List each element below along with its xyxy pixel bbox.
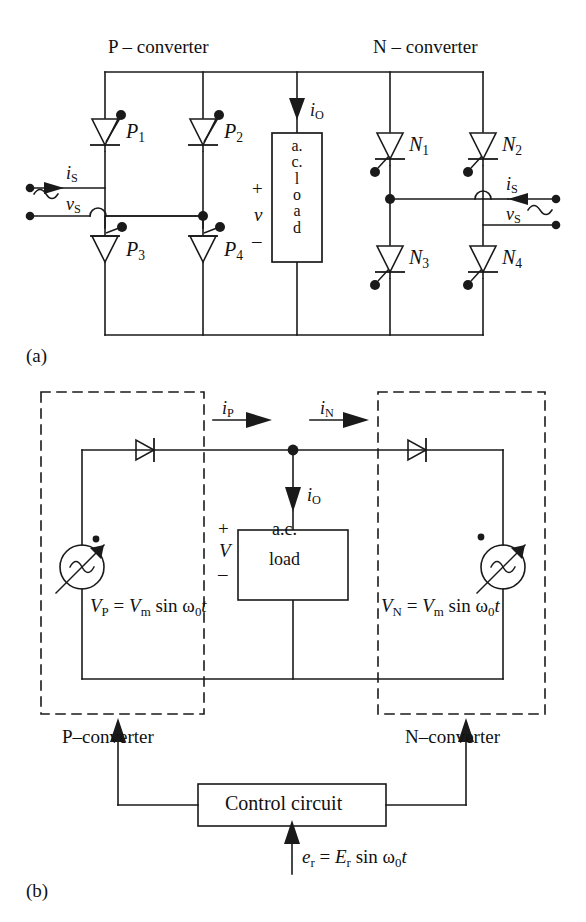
thyristor-N2 <box>463 133 498 177</box>
left-source-terminals <box>26 184 35 221</box>
thyristor-N3 <box>370 246 405 290</box>
load-voltage-a: v <box>254 204 262 226</box>
in-label: iN <box>320 398 334 421</box>
output-current-label-a: iO <box>310 100 324 123</box>
load-plus-a: + <box>252 178 263 200</box>
thyristor-N4 <box>463 246 498 290</box>
n-source-dot <box>478 534 485 541</box>
source-current-label-right: iS <box>506 174 518 197</box>
ac-load-line1-b: a.c. <box>272 519 297 540</box>
panel-a-p-converter-heading: P – converter <box>108 36 209 58</box>
n-source-equation: VN = Vm sin ω0t <box>381 595 500 620</box>
load-voltage-b: V <box>219 540 231 562</box>
source-voltage-label-left: vS <box>66 194 81 217</box>
source-voltage-label-right: vS <box>506 204 521 227</box>
p-source-equation: VP = Vm sin ω0t <box>90 595 207 620</box>
is-left-arrow <box>44 182 64 194</box>
thyristor-P4 <box>188 216 225 262</box>
in-arrowhead <box>343 412 369 428</box>
ac-load-char: d <box>293 220 301 236</box>
io-label-b: iO <box>307 485 321 508</box>
load-plus-b: + <box>218 518 229 540</box>
p-source-dot <box>93 536 100 543</box>
thyristor-label-N2: N2 <box>502 133 522 159</box>
ac-load-line2-b: load <box>269 549 300 570</box>
ac-load-char: o <box>293 187 301 203</box>
source-current-label-left: iS <box>66 163 78 186</box>
ip-label: iP <box>222 398 234 421</box>
ac-load-char: a. <box>291 138 302 154</box>
io-arrowhead-b <box>285 487 301 512</box>
thyristor-label-N1: N1 <box>409 133 429 159</box>
panel-a-caption: (a) <box>26 345 47 367</box>
right-source-terminals <box>552 195 561 230</box>
load-minus-a: – <box>252 230 262 252</box>
thyristor-P2 <box>188 110 224 152</box>
thyristor-P3 <box>90 216 127 262</box>
thyristor-P1 <box>90 110 126 152</box>
right-source-sine <box>528 206 552 215</box>
ac-load-char: l <box>295 171 299 187</box>
ac-load-text-a: a. c. l o a d <box>272 138 322 236</box>
panel-b-caption: (b) <box>26 880 48 902</box>
ac-load-char: a <box>293 203 300 219</box>
thyristor-label-P4: P4 <box>224 238 243 264</box>
io-arrow-a <box>289 98 305 120</box>
figure-root: P – converter N – converter P1 P2 P3 P4 … <box>0 0 586 922</box>
control-circuit-label: Control circuit <box>225 792 342 815</box>
center-junction-dot <box>288 445 299 456</box>
ac-load-char: c. <box>291 154 302 170</box>
thyristor-N1 <box>370 133 405 177</box>
thyristor-label-P2: P2 <box>224 120 243 146</box>
load-minus-b: – <box>218 563 228 585</box>
wire-hop-left <box>90 208 106 216</box>
n-converter-box-label: N–converter <box>405 726 500 748</box>
panel-a-n-converter-heading: N – converter <box>373 36 477 58</box>
thyristor-label-N4: N4 <box>502 246 522 272</box>
ip-arrowhead <box>246 412 272 428</box>
thyristor-label-N3: N3 <box>409 246 429 272</box>
p-converter-box-label: P–converter <box>62 726 154 748</box>
panel-b-schematic <box>0 382 586 922</box>
reference-signal-equation: er = Er sin ω0t <box>302 846 407 871</box>
thyristor-label-P1: P1 <box>126 120 145 146</box>
thyristor-label-P3: P3 <box>126 238 145 264</box>
